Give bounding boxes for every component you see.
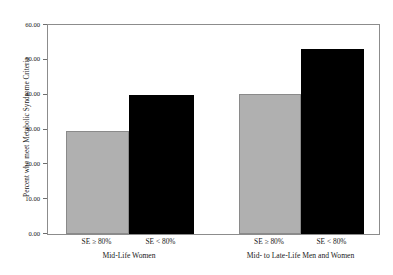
- y-tick-label: 20.00: [25, 158, 40, 169]
- plot-area: [47, 24, 380, 235]
- y-tick: 50.00: [0, 59, 47, 60]
- bar-chart-figure: Percent who meet Metabolic Syndrome Crit…: [0, 0, 393, 275]
- y-tick: 20.00: [0, 163, 47, 164]
- y-tick: 40.00: [0, 94, 47, 95]
- y-tick: 60.00: [0, 24, 47, 25]
- y-tick: 0.00: [0, 233, 47, 234]
- y-tick-label: 10.00: [25, 193, 40, 204]
- y-tick-label: 40.00: [25, 88, 40, 99]
- bar[interactable]: [239, 94, 301, 234]
- x-category-label: SE < 80%: [287, 236, 377, 247]
- x-axis-labels: SE ≥ 80%SE < 80%Mid-Life WomenSE ≥ 80%SE…: [0, 236, 393, 275]
- bar[interactable]: [66, 131, 129, 234]
- x-group-label: Mid-Life Women: [34, 250, 224, 261]
- y-tick: 30.00: [0, 129, 47, 130]
- y-tick-label: 60.00: [25, 19, 40, 30]
- y-axis-ticks: 0.0010.0020.0030.0040.0050.0060.00: [0, 0, 47, 275]
- y-tick-label: 30.00: [25, 123, 40, 134]
- y-tick: 10.00: [0, 198, 47, 199]
- bar[interactable]: [301, 49, 364, 234]
- x-group-label: Mid- to Late-Life Men and Women: [206, 250, 393, 261]
- bar[interactable]: [129, 95, 194, 234]
- x-category-label: SE < 80%: [116, 236, 206, 247]
- y-tick-label: 50.00: [25, 53, 40, 64]
